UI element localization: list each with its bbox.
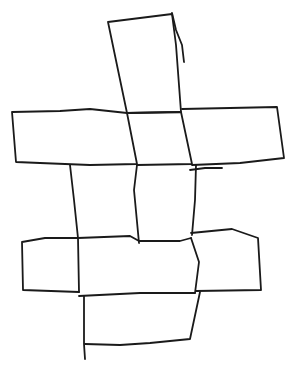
lower-band-left-box (22, 238, 79, 292)
lower-band-bottom (79, 293, 195, 296)
upper-band-right-box (182, 107, 284, 165)
middle-col-right-line (192, 165, 196, 235)
lower-band-right-box (191, 229, 261, 291)
lower-band-center-top (78, 236, 191, 241)
upper-band-left-box (12, 109, 137, 165)
upper-band-center-box (127, 112, 192, 165)
bottom-box (84, 296, 85, 359)
extra-stroke-top (172, 13, 184, 62)
sketch-canvas (0, 0, 295, 374)
middle-col-left-line (70, 165, 78, 238)
top-column-box (108, 14, 181, 113)
bottom-box (85, 292, 200, 345)
lower-band-center-left (78, 238, 79, 292)
tick-mark (190, 168, 222, 170)
middle-col-center-line (134, 165, 139, 243)
lower-band-center-right (191, 238, 199, 293)
